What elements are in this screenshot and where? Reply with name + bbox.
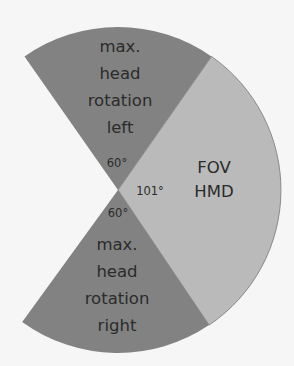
left-label-line-1: max. <box>99 37 140 56</box>
fov-label-line-1: FOV <box>197 158 231 177</box>
right-label-line-4: right <box>98 316 137 335</box>
right-label-line-2: head <box>96 262 137 281</box>
left-angle-label: 60° <box>107 156 127 170</box>
right-label-line-3: rotation <box>85 289 150 308</box>
fov-diagram: max. head rotation left 60° FOV HMD 101°… <box>0 0 294 366</box>
left-label-line-3: rotation <box>88 91 153 110</box>
right-angle-label: 60° <box>108 206 128 220</box>
left-label-line-2: head <box>99 64 140 83</box>
right-label-line-1: max. <box>96 235 137 254</box>
fov-angle-label: 101° <box>136 184 164 198</box>
left-label-line-4: left <box>107 118 134 137</box>
fov-label-line-2: HMD <box>194 182 233 201</box>
